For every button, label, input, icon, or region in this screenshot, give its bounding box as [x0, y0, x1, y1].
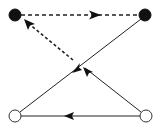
node-top-left[interactable]: [9, 9, 21, 21]
arrowhead-up-left: [83, 67, 93, 77]
edges: [20, 11, 141, 121]
node-bottom-right[interactable]: [140, 110, 152, 122]
node-top-right[interactable]: [139, 9, 151, 21]
arrowhead-right: [89, 11, 101, 20]
edge-bottom-right-to-crossing: [85, 68, 141, 112]
edge-crossing-to-top-left: [28, 23, 73, 60]
directed-graph-diagram: [0, 0, 161, 135]
arrowhead-down-left: [72, 63, 82, 73]
node-bottom-left[interactable]: [9, 110, 21, 122]
